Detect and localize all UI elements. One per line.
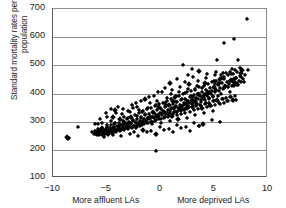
data-point: [167, 80, 172, 85]
y-tick-label-500: 500: [30, 58, 45, 68]
y-tick-600: [52, 37, 53, 38]
data-point: [225, 85, 229, 89]
data-point: [136, 134, 140, 138]
x-tick-5: [214, 176, 215, 177]
y-axis-title-line2: population: [19, 0, 29, 117]
data-point: [171, 130, 175, 134]
data-point: [205, 72, 209, 76]
x-axis-annotation: More affluent LAs: [72, 195, 139, 205]
data-point: [75, 125, 79, 129]
x-tick-label--10: −10: [44, 183, 60, 193]
x-axis-annotation: More deprived LAs: [177, 195, 249, 205]
data-point: [236, 58, 240, 62]
y-axis-title-line1: Standard mortality rates per 100 000: [9, 0, 19, 100]
y-tick-300: [52, 122, 53, 123]
data-point: [108, 107, 112, 111]
data-point: [148, 101, 152, 105]
data-point: [193, 113, 197, 117]
x-tick-label-10: 10: [262, 183, 272, 193]
data-point: [188, 128, 192, 132]
data-point: [175, 77, 179, 81]
y-tick-label-600: 600: [30, 30, 45, 40]
data-point: [200, 122, 205, 127]
data-point: [195, 79, 199, 83]
x-tick-label-0: 0: [157, 183, 162, 193]
gridline-y-500: [53, 65, 266, 66]
x-tick--10: [53, 176, 54, 177]
data-point: [154, 149, 158, 153]
data-point: [138, 99, 142, 103]
y-tick-label-100: 100: [30, 171, 45, 181]
y-tick-200: [52, 150, 53, 151]
y-tick-label-200: 200: [30, 143, 45, 153]
data-point: [191, 75, 195, 79]
data-point: [153, 131, 158, 136]
data-point: [173, 109, 177, 113]
y-tick-500: [52, 65, 53, 66]
data-point: [242, 80, 246, 84]
gridline-y-200: [53, 150, 266, 151]
scatter-chart-figure: Standard mortality rates per 100 000 pop…: [0, 0, 286, 208]
data-point: [178, 85, 182, 89]
data-point: [246, 68, 250, 72]
data-point: [234, 97, 238, 101]
data-point: [119, 134, 123, 138]
data-point: [215, 58, 219, 62]
plot-area: [52, 8, 267, 177]
data-point: [202, 111, 206, 115]
x-tick-label--5: −5: [101, 183, 111, 193]
data-point: [189, 67, 193, 71]
data-point: [184, 125, 188, 129]
y-tick-label-700: 700: [30, 2, 45, 12]
x-tick-label-5: 5: [211, 183, 216, 193]
x-tick--5: [107, 176, 108, 177]
y-tick-label-300: 300: [30, 115, 45, 125]
data-point: [110, 133, 114, 137]
data-point: [150, 122, 154, 126]
data-point: [163, 86, 167, 90]
data-point: [151, 94, 155, 98]
data-point: [132, 130, 136, 134]
data-point: [210, 109, 214, 113]
data-point: [245, 17, 249, 21]
data-point: [196, 68, 201, 73]
y-tick-400: [52, 94, 53, 95]
y-tick-label-400: 400: [30, 87, 45, 97]
data-point: [232, 37, 236, 41]
data-point: [222, 41, 226, 45]
y-tick-700: [52, 9, 53, 10]
data-point: [204, 76, 208, 80]
x-tick-0: [161, 176, 162, 177]
data-point: [166, 127, 170, 131]
data-point: [180, 63, 184, 67]
data-point: [185, 116, 189, 120]
data-point: [222, 86, 226, 90]
data-point: [218, 120, 222, 124]
